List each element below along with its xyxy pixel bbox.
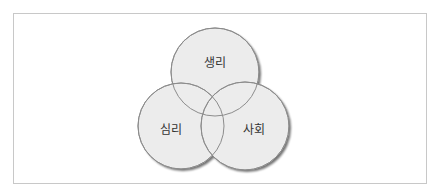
venn-diagram: 생리 심리 사회	[0, 0, 438, 195]
label-biological: 생리	[204, 56, 226, 70]
label-psychological: 심리	[160, 123, 182, 137]
label-social: 사회	[243, 123, 265, 137]
